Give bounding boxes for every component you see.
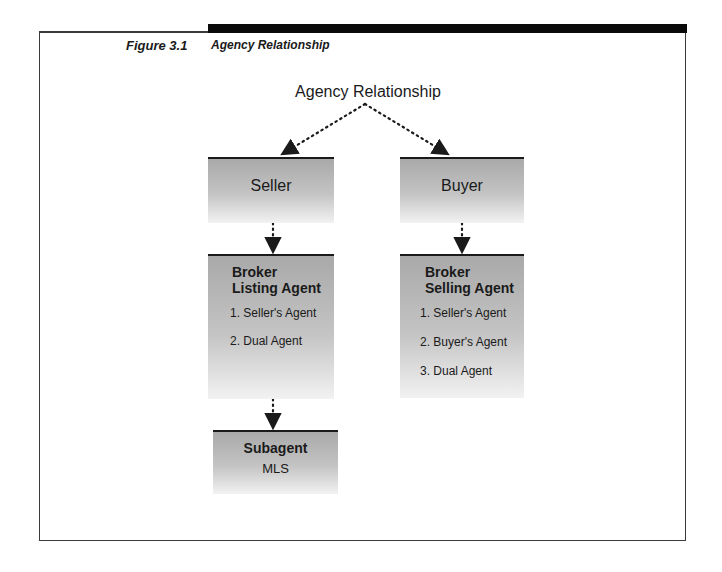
selling-item: 1. Seller's Agent — [420, 306, 524, 320]
node-subagent: Subagent MLS — [213, 430, 338, 494]
arrow-root-to-seller — [284, 104, 365, 153]
node-buyer-label: Buyer — [400, 177, 524, 195]
node-seller-label: Seller — [208, 177, 334, 195]
arrow-root-to-buyer — [365, 104, 446, 153]
subagent-heading: Subagent — [213, 440, 338, 456]
node-broker-listing-agent: Broker Listing Agent 1. Seller's Agent 2… — [208, 254, 334, 399]
listing-heading-role: Listing Agent — [232, 280, 334, 296]
connector-arrows — [0, 0, 722, 572]
selling-item: 3. Dual Agent — [420, 364, 524, 378]
listing-heading-broker: Broker — [232, 264, 334, 280]
listing-item: 1. Seller's Agent — [230, 306, 334, 320]
listing-item: 2. Dual Agent — [230, 334, 334, 348]
selling-heading-broker: Broker — [425, 264, 524, 280]
selling-heading-role: Selling Agent — [425, 280, 524, 296]
node-buyer: Buyer — [400, 157, 524, 223]
node-seller: Seller — [208, 157, 334, 223]
subagent-sub: MLS — [213, 461, 338, 476]
selling-item: 2. Buyer's Agent — [420, 335, 524, 349]
node-broker-selling-agent: Broker Selling Agent 1. Seller's Agent 2… — [400, 254, 524, 398]
